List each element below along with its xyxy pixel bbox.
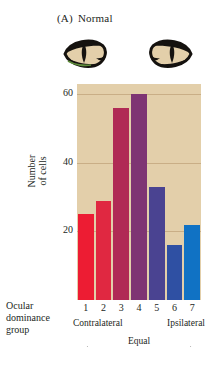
y-axis-title-line2: of cells [37, 128, 48, 214]
contralateral-label: Contralateral [73, 318, 123, 328]
x-tick-1: 1 [77, 302, 95, 313]
y-axis-title: Number of cells [26, 128, 48, 214]
cat-eye-icon-right [148, 36, 194, 70]
equal-label-wrapper: Equal [77, 336, 201, 346]
x-tick-3: 3 [112, 302, 130, 313]
x-tick-2: 2 [95, 302, 113, 313]
x-tick-7: 7 [183, 302, 201, 313]
y-tick-label: 20 [63, 224, 73, 235]
y-tick-label: 60 [63, 87, 73, 98]
y-tick-label: 40 [63, 156, 73, 167]
bar-group-6 [167, 245, 183, 300]
equal-label: Equal [125, 336, 153, 346]
x-axis-title-line2: dominance [6, 312, 50, 324]
bar-series [77, 84, 201, 300]
x-tick-5: 5 [148, 302, 166, 313]
x-tick-6: 6 [166, 302, 184, 313]
y-axis-title-line1: Number [26, 128, 37, 214]
eye-side-labels: Contralateral Ipsilateral [77, 318, 201, 328]
ipsilateral-label: Ipsilateral [167, 318, 205, 328]
x-axis-title-line1: Ocular [6, 300, 50, 312]
bar-group-7 [184, 225, 200, 300]
x-axis-title: Ocular dominance group [6, 300, 50, 336]
bar-group-3 [113, 108, 129, 300]
bar-group-4 [131, 94, 147, 300]
bar-group-2 [96, 201, 112, 300]
x-axis-tick-labels: 1234567 [77, 302, 201, 313]
figure-panel-a: (A)Normal 60 40 20 Number [0, 0, 219, 376]
x-axis-title-line3: group [6, 324, 50, 336]
bar-group-5 [149, 187, 165, 300]
x-tick-4: 4 [130, 302, 148, 313]
panel-title-text: Normal [78, 12, 113, 24]
equal-arrow-row: Equal [77, 335, 201, 349]
bar-group-1 [78, 214, 94, 300]
plot-area [77, 84, 201, 300]
